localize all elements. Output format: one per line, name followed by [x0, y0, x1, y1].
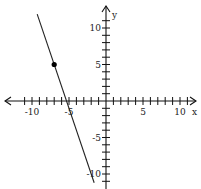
graph-line	[37, 14, 94, 183]
x-tick-label: 5	[140, 107, 146, 117]
y-axis-label: y	[111, 10, 118, 20]
coordinate-plane: -10-5510105-5-10xy	[0, 0, 201, 189]
y-tick-label: -5	[92, 133, 101, 143]
data-point	[52, 62, 57, 67]
x-axis-label: x	[192, 107, 197, 117]
x-tick-label: -10	[25, 107, 40, 117]
y-tick-label: -10	[87, 169, 102, 179]
y-tick-label: 10	[90, 23, 102, 33]
y-tick-label: 5	[95, 60, 101, 70]
x-tick-label: 10	[174, 107, 186, 117]
